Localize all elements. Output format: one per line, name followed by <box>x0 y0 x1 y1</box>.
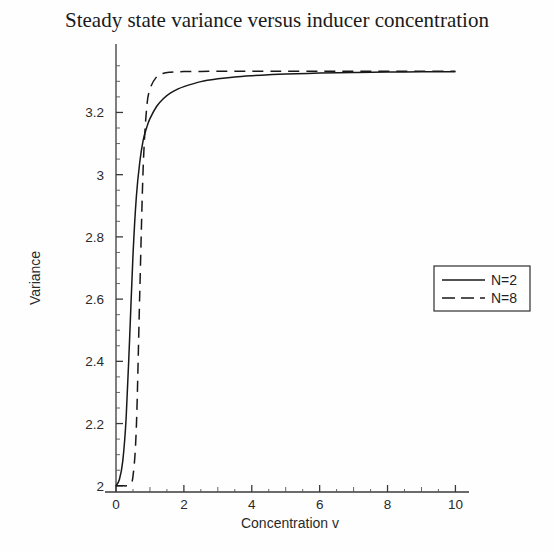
chart-title: Steady state variance versus inducer con… <box>65 8 489 32</box>
x-tick-label-2: 2 <box>180 497 188 512</box>
data-curves <box>116 71 455 486</box>
curve-n8 <box>116 71 455 486</box>
x-tick-label-4: 4 <box>248 497 256 512</box>
x-tick-label-0: 0 <box>112 497 120 512</box>
x-tick-label-8: 8 <box>384 497 392 512</box>
steady-state-variance-chart: Steady state variance versus inducer con… <box>0 0 554 551</box>
x-axis-ticks <box>116 485 455 492</box>
x-axis-tick-labels: 0246810 <box>112 497 463 512</box>
chart-page: Steady state variance versus inducer con… <box>0 0 554 551</box>
y-tick-label-2.4: 2.4 <box>85 354 104 369</box>
legend-label-n2: N=2 <box>491 272 517 288</box>
curve-n2 <box>116 72 455 486</box>
x-tick-label-10: 10 <box>448 497 463 512</box>
legend-label-n8: N=8 <box>491 290 517 306</box>
y-tick-label-3.2: 3.2 <box>85 105 104 120</box>
x-tick-label-6: 6 <box>316 497 324 512</box>
axes <box>105 44 469 492</box>
y-tick-label-2.2: 2.2 <box>85 417 104 432</box>
y-axis-tick-labels: 22.22.42.62.833.2 <box>85 105 104 493</box>
y-tick-label-2.6: 2.6 <box>85 292 104 307</box>
legend[interactable]: N=2 N=8 <box>434 266 530 311</box>
y-tick-label-2: 2 <box>96 479 104 494</box>
y-tick-label-2.8: 2.8 <box>85 230 104 245</box>
x-axis-label: Concentration v <box>241 515 339 531</box>
y-axis-ticks <box>116 66 123 486</box>
y-tick-label-3: 3 <box>96 168 104 183</box>
y-axis-label: Variance <box>27 251 43 305</box>
